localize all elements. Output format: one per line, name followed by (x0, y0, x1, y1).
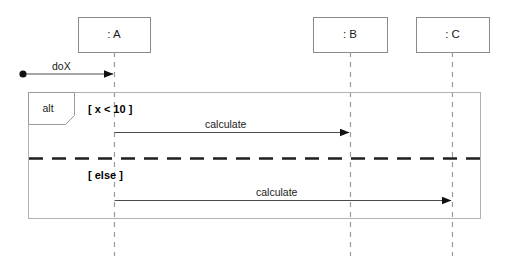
lifeline-label-c: : C (416, 29, 489, 41)
sequence-diagram-canvas: : A : B : C doX alt [ x < 10 ] calculate… (0, 0, 507, 269)
found-message-origin-dot (19, 70, 26, 77)
found-message-label-dox: doX (52, 61, 71, 72)
alt-operand-guard-2: [ else ] (88, 170, 123, 181)
lifeline-label-b: : B (313, 29, 387, 41)
lifeline-label-a: : A (78, 29, 150, 41)
message-label-calculate-a-to-c: calculate (256, 187, 297, 198)
alt-operand-guard-1: [ x < 10 ] (88, 104, 132, 115)
alt-fragment-operator-label: alt (28, 103, 68, 114)
message-label-calculate-a-to-b: calculate (205, 119, 246, 130)
